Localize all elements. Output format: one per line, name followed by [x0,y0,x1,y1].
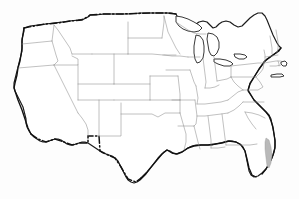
lake-michigan [194,35,204,63]
long-island [271,74,284,77]
map-figure: Outline map of the contiguous United Sta… [0,0,299,199]
cape-cod [281,61,287,66]
contiguous-us-outline [14,13,281,183]
us-map-svg [0,0,299,199]
border-al-fl-panhandle [211,147,225,148]
border-ma-ct-ri [270,65,281,66]
